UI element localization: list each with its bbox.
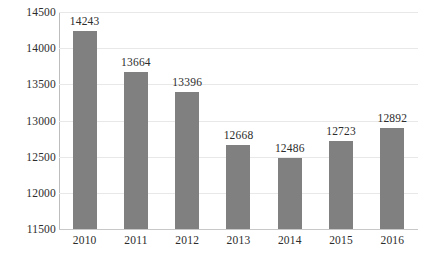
y-axis-tick-label: 13000 [2,115,56,127]
bar-group [264,12,315,229]
y-axis-tick-label: 11500 [2,223,56,235]
bar-value-label: 12892 [377,112,407,124]
bar-value-label: 12486 [275,142,305,154]
x-axis-tick-label: 2010 [73,234,97,246]
bar-value-label: 13664 [121,56,151,68]
y-axis-tick-label: 14500 [2,6,56,18]
bar [226,145,250,229]
y-axis-tick-label: 12500 [2,151,56,163]
x-axis-tick-label: 2015 [329,234,353,246]
bar-value-label: 13396 [172,76,202,88]
y-axis-tick-label: 13500 [2,78,56,90]
y-axis-tick-label: 14000 [2,42,56,54]
y-axis-tick-label: 12000 [2,187,56,199]
y-axis-tick-labels: 11500120001250013000135001400014500 [0,0,56,273]
bar-value-label: 14243 [70,15,100,27]
bar-value-label: 12723 [326,125,356,137]
bar [73,31,97,229]
x-axis-tick-label: 2011 [124,234,147,246]
bar [175,92,199,229]
bar-chart: 11500120001250013000135001400014500 1424… [0,0,425,273]
bar [329,141,353,229]
x-axis-tick-labels: 1424320101366420111339620121266820131248… [59,0,418,273]
bar-group [59,12,110,229]
x-axis-tick-label: 2016 [380,234,404,246]
bar-group [315,12,366,229]
bar [380,128,404,229]
bar [278,158,302,229]
x-axis-tick-label: 2012 [175,234,199,246]
bar-value-label: 12668 [224,129,254,141]
bar [124,72,148,229]
bar-group [110,12,161,229]
x-axis-tick-label: 2014 [278,234,302,246]
bar-group [162,12,213,229]
x-axis-tick-label: 2013 [227,234,251,246]
bar-group [213,12,264,229]
